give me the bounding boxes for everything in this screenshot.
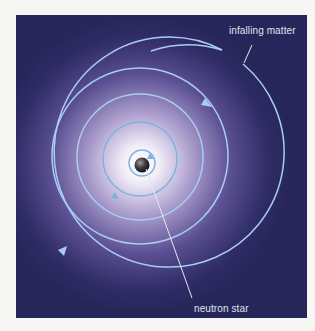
neutron-star-icon	[135, 158, 150, 173]
accretion-spiral-graphic	[16, 15, 307, 318]
accretion-diagram-panel: infalling matter neutron star	[16, 15, 307, 318]
infalling-matter-label: infalling matter	[229, 25, 296, 36]
neutron-star-label: neutron star	[194, 303, 249, 314]
